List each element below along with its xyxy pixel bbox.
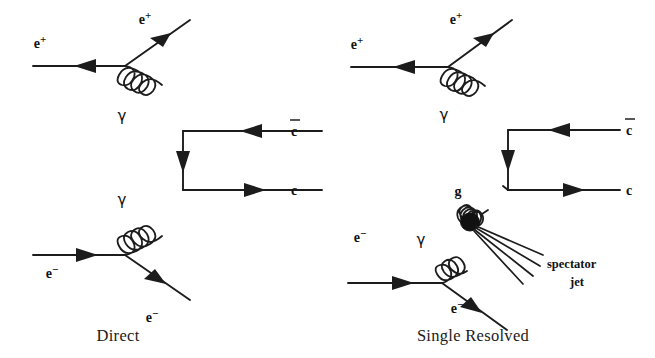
- panel-single-resolved: γ g γ: [348, 9, 635, 345]
- direct-cbar-arrow-icon: [240, 124, 262, 138]
- resolved-spectator-jet-line: [474, 231, 523, 284]
- caption-single-resolved: Single Resolved: [417, 326, 530, 345]
- direct-c-label: c: [291, 183, 297, 198]
- direct-c-arrow-icon: [244, 183, 266, 197]
- direct-cbar-label: c: [291, 124, 297, 139]
- direct-electron-incoming-arrow-icon: [76, 248, 98, 262]
- resolved-positron-incoming-arrow-icon: [473, 33, 494, 47]
- direct-photon-top-wavy-line: [118, 66, 162, 95]
- resolved-cbar-arrow-icon: [548, 123, 570, 137]
- direct-electron-outgoing-label: e−: [146, 307, 159, 325]
- direct-charm-propagator-arrow-icon: [176, 151, 190, 173]
- resolved-positron-outgoing-label: e+: [351, 34, 364, 52]
- direct-positron-outgoing-arrow-icon: [74, 59, 96, 73]
- resolved-electron-incoming-arrow-icon: [392, 276, 414, 290]
- resolved-charm-propagator-arrow-icon: [501, 150, 515, 172]
- direct-positron-incoming-arrow-icon: [150, 33, 171, 47]
- resolved-photon-bottom-wavy-line: [436, 257, 467, 283]
- resolved-c-arrow-icon: [563, 183, 585, 197]
- direct-cbar-label-group: c: [290, 120, 300, 139]
- direct-positron-outgoing-label: e+: [34, 33, 47, 51]
- resolved-electron-incoming-label: e−: [354, 227, 367, 245]
- resolved-spectator-jet-line: [476, 226, 543, 255]
- resolved-photon-top-label: γ: [440, 106, 449, 124]
- direct-electron-incoming-label: e−: [46, 263, 59, 281]
- resolved-spectator-jet-label-line2: jet: [569, 275, 585, 289]
- panel-direct: γ γ e+ e+: [33, 9, 322, 345]
- direct-photon-bottom-label: γ: [118, 191, 127, 209]
- direct-photon-bottom-wavy-line: [118, 226, 162, 255]
- resolved-c-label: c: [626, 183, 632, 198]
- feynman-figure: γ γ e+ e+: [0, 0, 655, 358]
- resolved-positron-outgoing-arrow-icon: [393, 60, 415, 74]
- resolved-spectator-jet-line: [475, 230, 533, 276]
- resolved-positron-incoming-label: e+: [450, 9, 463, 27]
- resolved-spectator-jet-line: [476, 228, 540, 266]
- resolved-photon-bottom-label: γ: [417, 231, 426, 249]
- resolved-electron-outgoing-label: e−: [451, 298, 464, 316]
- resolved-cbar-label: c: [626, 123, 632, 138]
- resolved-spectator-jet-label-line1: spectator: [547, 257, 597, 271]
- diagram-canvas: γ γ e+ e+: [0, 0, 655, 358]
- resolved-gluon-label: g: [455, 184, 462, 199]
- resolved-positron-incoming-line: [448, 20, 512, 67]
- direct-positron-incoming-label: e+: [139, 9, 152, 27]
- resolved-photon-top-wavy-line: [441, 67, 485, 96]
- resolved-cbar-label-group: c: [625, 119, 635, 138]
- direct-photon-top-label: γ: [118, 107, 127, 125]
- caption-direct: Direct: [96, 326, 139, 345]
